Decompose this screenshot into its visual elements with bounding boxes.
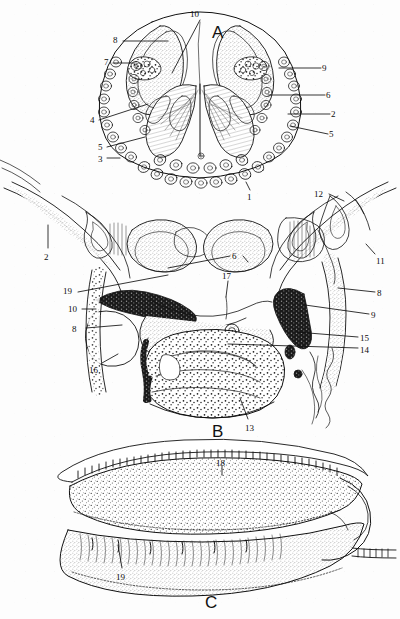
label-a-6-4: 6 (326, 91, 331, 100)
label-b-14-23: 14 (360, 346, 369, 355)
label-b-11-13: 11 (376, 257, 385, 266)
leader-line-11 (366, 244, 375, 254)
anatomical-plate: ABC 108796254531122116178199108151416131… (0, 0, 400, 619)
label-a-1-10: 1 (247, 193, 252, 202)
label-b-15-22: 15 (360, 334, 369, 343)
panel-c-drawing (58, 439, 396, 596)
label-a-9-3: 9 (322, 64, 327, 73)
panel-letter-b: B (212, 423, 223, 440)
label-a-2-5: 2 (331, 110, 336, 119)
label-b-2-12: 2 (44, 253, 49, 262)
leader-line-17 (226, 281, 228, 297)
label-b-10-20: 10 (68, 305, 77, 314)
leader-line-19 (78, 275, 168, 292)
label-c-18-26: 18 (216, 459, 225, 468)
label-a-3-9: 3 (98, 155, 103, 164)
label-a-5-6: 5 (329, 130, 334, 139)
label-b-16-24: 16 (89, 366, 98, 375)
label-b-6-14: 6 (232, 252, 237, 261)
label-b-19-18: 19 (63, 287, 72, 296)
leader-line-16 (102, 354, 118, 363)
label-b-13-25: 13 (245, 424, 254, 433)
label-b-9-19: 9 (371, 311, 376, 320)
label-a-5-8: 5 (98, 143, 103, 152)
panel-b-drawing (4, 182, 396, 428)
label-a-4-7: 4 (90, 116, 95, 125)
label-b-8-21: 8 (72, 325, 77, 334)
panel-letter-c: C (205, 594, 217, 611)
label-a-8-1: 8 (113, 36, 118, 45)
leader-line-1 (246, 182, 250, 190)
label-a-7-2: 7 (104, 58, 109, 67)
panel-a-drawing (0, 12, 302, 192)
panel-letter-a: A (212, 24, 223, 41)
label-b-12-11: 12 (314, 190, 323, 199)
leader-line-5 (290, 126, 328, 134)
label-b-17-16: 17 (222, 272, 231, 281)
label-c-19-27: 19 (116, 573, 125, 582)
figure-illustration (0, 0, 400, 619)
label-b-8-17: 8 (377, 289, 382, 298)
label-a-10-0: 10 (190, 10, 199, 19)
